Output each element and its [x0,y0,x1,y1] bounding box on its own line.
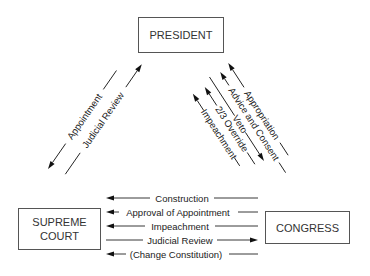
arrowhead-left-icon [106,196,114,201]
arrow-impeachment-court: Impeachment [106,221,258,232]
supreme-court-box [19,209,101,250]
arrowhead-left-icon [106,252,114,257]
president-label: PRESIDENT [150,29,213,41]
arrowhead-up-left-icon [218,71,227,80]
arrow-appropriation: Appropriation [224,60,293,158]
arrow-change-constitution: (Change Constitution) [106,249,258,260]
arrow-construction: Construction [106,193,258,204]
arrow-judicial-review-congress: Judicial Review [106,235,258,246]
congress-node: CONGRESS [266,212,350,244]
change-constitution-label: (Change Constitution) [130,249,222,260]
judicial-review-congress-label: Judicial Review [147,235,213,246]
arrowhead-left-icon [106,210,114,215]
congress-label: CONGRESS [276,222,339,234]
arrowhead-left-icon [106,224,114,229]
supreme-court-label-line2: COURT [40,230,79,242]
arrowhead-up-left-icon [203,86,212,95]
arrowhead-up-left-icon [226,62,235,71]
arrow-judicial-review-president: Judicial Review [61,61,147,177]
president-court-arrows: Appointment Judicial Review [43,61,146,177]
arrow-approval-of-appointment: Approval of Appointment [106,207,258,218]
supreme-court-node: SUPREME COURT [19,209,101,250]
arrowhead-down-left-icon [46,161,55,170]
president-congress-arrows: Appropriation Advice and Consent Veto 2/… [188,60,293,176]
construction-label: Construction [155,193,208,204]
supreme-court-label-line1: SUPREME [32,216,86,228]
president-node: PRESIDENT [139,18,224,53]
arrowhead-up-right-icon [135,63,144,72]
checks-and-balances-diagram: PRESIDENT SUPREME COURT CONGRESS Constru… [0,0,370,276]
arrowhead-right-icon [250,238,258,243]
court-congress-arrows: Construction Approval of Appointment Imp… [106,193,258,260]
arrowhead-up-left-icon [191,92,200,101]
approval-of-appointment-label: Approval of Appointment [126,207,230,218]
arrowhead-down-right-icon [258,153,267,162]
impeachment-court-label: Impeachment [151,221,209,232]
